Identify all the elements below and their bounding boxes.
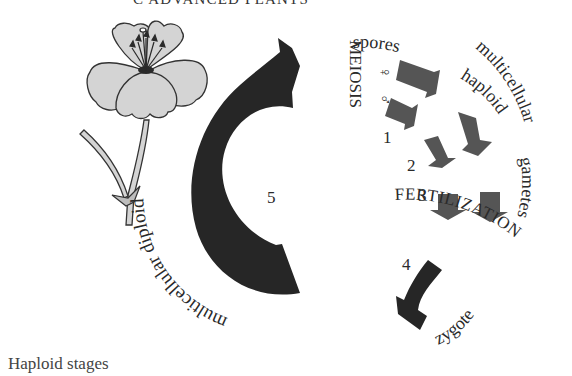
arrow-spore-female xyxy=(396,60,440,98)
arrow-haploid-female xyxy=(458,112,492,156)
life-cycle-diagram: MEIOSIS ♀ ♂ spores multicellular haploid… xyxy=(0,0,572,376)
caption-haploid-stages: Haploid stages xyxy=(8,354,109,374)
label-zygote: zygote xyxy=(431,305,478,349)
arrow-haploid-male xyxy=(424,136,456,168)
life-cycle-figure: C ADVANCED PLANTS xyxy=(0,0,572,376)
label-gametes: gametes xyxy=(513,155,538,220)
step-4: 4 xyxy=(402,255,411,274)
leaf-stem xyxy=(80,130,128,198)
step-2: 2 xyxy=(407,156,416,175)
female-symbol: ♀ xyxy=(377,66,394,78)
flower-illustration xyxy=(80,21,207,225)
male-symbol: ♂ xyxy=(377,94,394,106)
step-5: 5 xyxy=(267,188,276,207)
step-3: 3 xyxy=(418,186,427,205)
section-header: C ADVANCED PLANTS xyxy=(133,0,309,8)
step-1: 1 xyxy=(383,128,392,147)
